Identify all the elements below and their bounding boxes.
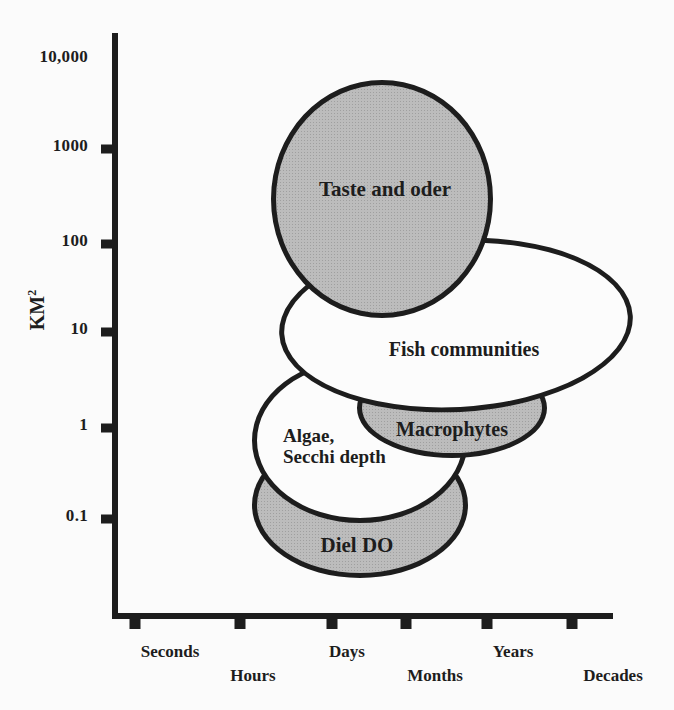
region-label-line: Taste and oder	[319, 178, 451, 202]
region-label-macrophytes: Macrophytes	[396, 418, 508, 440]
region-label-line: Algae,	[283, 425, 386, 446]
region-label-diel-do: Diel DO	[321, 534, 394, 558]
region-label-algae-secchi-depth: Algae,Secchi depth	[283, 425, 386, 468]
region-label-line: Macrophytes	[396, 418, 508, 440]
scale-bubble-chart: KM2 10,00010001001010.1 SecondsHoursDays…	[0, 0, 674, 710]
region-label-taste-and-oder: Taste and oder	[319, 178, 451, 202]
region-label-line: Diel DO	[321, 534, 394, 558]
region-label-line: Secchi depth	[283, 446, 386, 467]
region-label-fish-communities: Fish communities	[389, 338, 540, 360]
region-label-line: Fish communities	[389, 338, 540, 360]
plot-labels-layer: Diel DOAlgae,Secchi depthMacrophytesFish…	[0, 0, 674, 710]
